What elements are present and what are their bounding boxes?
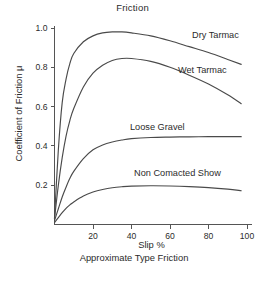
series-label: Loose Gravel: [130, 122, 185, 132]
x-axis-title: Slip %: [54, 239, 249, 250]
series-label: Non Comacted Show: [134, 168, 221, 178]
series-curve: [55, 58, 242, 218]
series-label: Dry Tarmac: [192, 30, 239, 40]
y-tick-label: 0.8: [36, 62, 48, 72]
series-label: Wet Tarmac: [178, 65, 227, 75]
friction-chart-figure: Friction 0.20.40.60.81.0 20406080100 Dry…: [0, 0, 265, 283]
y-tick-label: 0.4: [36, 141, 48, 151]
series-curve: [55, 137, 242, 221]
y-tick-label: 1.0: [36, 23, 48, 33]
series-labels-group: Dry TarmacWet TarmacLoose GravelNon Coma…: [130, 30, 239, 178]
y-ticks-group: 0.20.40.60.81.0: [36, 23, 55, 190]
y-tick-label: 0.6: [36, 102, 48, 112]
y-tick-label: 0.2: [36, 180, 48, 190]
series-curve: [55, 186, 242, 223]
figure-caption: Approximate Type Friction: [20, 252, 248, 263]
y-axis-title: Coefficient of Friction μ: [13, 34, 24, 194]
